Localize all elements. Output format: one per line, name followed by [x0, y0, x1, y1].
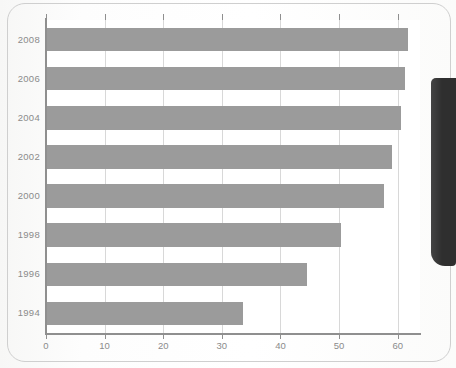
x-tick-label-20: 20: [158, 340, 169, 351]
x-tickmark-top-20: [163, 14, 164, 20]
category-label-2002: 2002: [18, 151, 40, 162]
x-tickmark-top-60: [398, 14, 399, 20]
bar-2002: [46, 145, 392, 168]
x-tickmark-top-10: [105, 14, 106, 20]
y-axis-category-labels: 20082006200420022000199819961994: [0, 20, 40, 333]
bar-1996: [46, 263, 307, 286]
category-label-1996: 1996: [18, 268, 40, 279]
x-tick-label-10: 10: [99, 340, 110, 351]
bar-2000: [46, 184, 384, 207]
x-tickmark-60: [398, 333, 399, 339]
x-tick-label-50: 50: [334, 340, 345, 351]
bar-2006: [46, 67, 405, 90]
screenshot-root: 20082006200420022000199819961994 0102030…: [0, 0, 456, 368]
x-tickmark-40: [280, 333, 281, 339]
x-tickmark-top-50: [339, 14, 340, 20]
bar-1994: [46, 302, 243, 325]
x-tickmark-top-0: [46, 14, 47, 20]
x-tick-label-0: 0: [43, 340, 48, 351]
bar-2008: [46, 28, 408, 51]
x-tickmark-30: [222, 333, 223, 339]
x-tickmark-50: [339, 333, 340, 339]
category-label-2008: 2008: [18, 34, 40, 45]
category-label-2004: 2004: [18, 112, 40, 123]
x-tickmark-0: [46, 333, 47, 339]
x-tick-label-30: 30: [217, 340, 228, 351]
bar-chart: 20082006200420022000199819961994 0102030…: [0, 0, 456, 368]
bar-1998: [46, 223, 341, 246]
x-tickmark-20: [163, 333, 164, 339]
x-tick-label-60: 60: [392, 340, 403, 351]
device-bezel-edge: [431, 78, 456, 266]
x-tickmark-10: [105, 333, 106, 339]
y-axis-line: [45, 18, 47, 335]
plot-area: [46, 20, 420, 333]
category-label-2000: 2000: [18, 190, 40, 201]
category-label-1994: 1994: [18, 307, 40, 318]
category-label-2006: 2006: [18, 73, 40, 84]
x-tickmark-top-30: [222, 14, 223, 20]
x-axis-line: [45, 333, 421, 335]
category-label-1998: 1998: [18, 229, 40, 240]
bar-2004: [46, 106, 401, 129]
x-tickmark-top-40: [280, 14, 281, 20]
x-tick-label-40: 40: [275, 340, 286, 351]
